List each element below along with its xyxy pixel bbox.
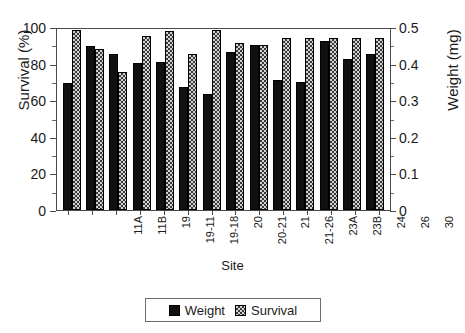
y-axis-right-tick-label: 0.4 bbox=[399, 58, 439, 72]
bar-survival bbox=[259, 45, 268, 210]
bar-group bbox=[130, 29, 153, 210]
bar-weight bbox=[273, 80, 282, 210]
y-axis-right-tick-label: 0.1 bbox=[399, 167, 439, 181]
bar-group bbox=[177, 29, 200, 210]
bar-survival bbox=[352, 38, 361, 210]
bar-group bbox=[60, 29, 83, 210]
x-axis-tick-label: 20-21 bbox=[277, 216, 288, 276]
plot-area bbox=[56, 28, 391, 211]
x-axis-tick bbox=[212, 211, 213, 215]
legend-swatch-survival-icon bbox=[235, 305, 246, 316]
bar-weight bbox=[366, 54, 375, 210]
x-axis-tick bbox=[68, 211, 69, 215]
x-axis-tick-label: 21-26 bbox=[324, 216, 335, 276]
bar-survival bbox=[95, 49, 104, 210]
x-axis-tick bbox=[283, 211, 284, 215]
bar-survival bbox=[305, 38, 314, 210]
chart-figure: Survival (%) Weight (mg) Site 0204060801… bbox=[0, 0, 465, 333]
bar-weight bbox=[133, 63, 142, 210]
x-axis-tick bbox=[164, 211, 165, 215]
chart-legend: WeightSurvival bbox=[145, 298, 321, 322]
bar-groups bbox=[57, 29, 390, 210]
bar-weight bbox=[250, 45, 259, 210]
bar-group bbox=[200, 29, 223, 210]
bar-survival bbox=[142, 36, 151, 210]
bar-survival bbox=[72, 30, 81, 210]
bar-group bbox=[224, 29, 247, 210]
bar-weight bbox=[296, 82, 305, 211]
x-axis-tick bbox=[235, 211, 236, 215]
bar-weight bbox=[343, 59, 352, 210]
x-axis-tick-label: 24 bbox=[396, 216, 407, 276]
bar-survival bbox=[165, 31, 174, 210]
x-axis-tick bbox=[116, 211, 117, 215]
bar-survival bbox=[282, 38, 291, 210]
bar-survival bbox=[329, 38, 338, 210]
legend-swatch-weight-icon bbox=[169, 305, 180, 316]
bar-survival bbox=[188, 54, 197, 210]
x-axis-tick-label: 26 bbox=[420, 216, 431, 276]
x-axis-tick bbox=[331, 211, 332, 215]
x-axis-tick-label: 21 bbox=[300, 216, 311, 276]
x-axis-tick bbox=[307, 211, 308, 215]
y-axis-left-tick-label: 0 bbox=[0, 204, 46, 218]
y-axis-right-tick-label: 0.5 bbox=[399, 21, 439, 35]
bar-group bbox=[107, 29, 130, 210]
legend-item: Weight bbox=[169, 304, 225, 317]
bar-group bbox=[364, 29, 387, 210]
x-axis-tick bbox=[140, 211, 141, 215]
bar-survival bbox=[235, 43, 244, 210]
bar-survival bbox=[118, 72, 127, 210]
bar-weight bbox=[63, 83, 72, 210]
x-axis-tick-label: 23B bbox=[372, 216, 383, 276]
y-axis-left-tick-label: 100 bbox=[0, 21, 46, 35]
y-axis-right-title: Weight (mg) bbox=[443, 0, 463, 140]
bar-group bbox=[340, 29, 363, 210]
x-axis-tick-label: 23A bbox=[348, 216, 359, 276]
y-axis-left-tick-label: 60 bbox=[0, 94, 46, 108]
legend-item: Survival bbox=[235, 304, 297, 317]
x-axis-tick bbox=[92, 211, 93, 215]
y-axis-right-tick-label: 0.3 bbox=[399, 94, 439, 108]
bar-group bbox=[83, 29, 106, 210]
bar-group bbox=[247, 29, 270, 210]
y-axis-left-tick bbox=[50, 211, 56, 212]
y-axis-right-tick bbox=[390, 211, 396, 212]
bar-weight bbox=[109, 54, 118, 210]
bar-weight bbox=[156, 62, 165, 210]
bar-group bbox=[270, 29, 293, 210]
legend-label: Survival bbox=[251, 304, 297, 317]
bar-group bbox=[153, 29, 176, 210]
bar-weight bbox=[179, 87, 188, 210]
x-axis-tick bbox=[259, 211, 260, 215]
x-axis-tick-label: 30 bbox=[444, 216, 455, 276]
bar-group bbox=[294, 29, 317, 210]
bar-group bbox=[317, 29, 340, 210]
x-axis-tick bbox=[379, 211, 380, 215]
bar-weight bbox=[226, 52, 235, 210]
x-axis-tick-label: 11B bbox=[157, 216, 168, 276]
x-axis-tick bbox=[188, 211, 189, 215]
y-axis-left-tick-label: 40 bbox=[0, 131, 46, 145]
x-axis-tick-label: 19 bbox=[181, 216, 192, 276]
legend-label: Weight bbox=[185, 304, 225, 317]
bar-survival bbox=[212, 30, 221, 210]
x-axis-tick-label: 11A bbox=[133, 216, 144, 276]
bar-weight bbox=[203, 94, 212, 210]
bar-weight bbox=[320, 41, 329, 210]
y-axis-left-tick-label: 80 bbox=[0, 58, 46, 72]
bar-survival bbox=[375, 38, 384, 210]
x-axis-tick-label: 20 bbox=[253, 216, 264, 276]
y-axis-right-tick-label: 0.2 bbox=[399, 131, 439, 145]
x-axis-tick-label: 19-18 bbox=[229, 216, 240, 276]
y-axis-left-tick-label: 20 bbox=[0, 167, 46, 181]
x-axis-tick bbox=[355, 211, 356, 215]
bar-weight bbox=[86, 46, 95, 210]
x-axis-tick-label: 19-11 bbox=[205, 216, 216, 276]
